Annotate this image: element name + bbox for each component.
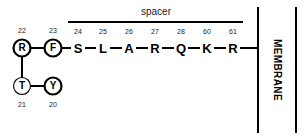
residue-number-27: 27 (151, 28, 159, 35)
residue-number-21: 21 (18, 101, 26, 108)
residue-number-24: 24 (74, 28, 82, 35)
membrane-label: MEMBRANE (272, 39, 282, 101)
residue-letter-y20: Y (50, 81, 57, 91)
peptide-membrane-diagram: spacer MEMBRANE R22F23T21Y20S24L25A26R27… (0, 0, 308, 139)
residue-letter-f23: F (50, 43, 56, 53)
residue-number-23: 23 (49, 27, 57, 34)
residue-letter-r27: R (150, 42, 159, 55)
residue-letter-r22: R (18, 43, 25, 53)
residue-number-28: 28 (177, 28, 185, 35)
residue-letter-t21: T (19, 81, 25, 91)
residue-number-60: 60 (203, 28, 211, 35)
residue-letter-a26: A (124, 42, 133, 55)
residue-number-20: 20 (49, 101, 57, 108)
residue-letter-l25: L (99, 42, 107, 55)
residue-number-22: 22 (18, 27, 26, 34)
residue-letter-s24: S (74, 42, 83, 55)
residue-letter-r61: R (228, 42, 237, 55)
residue-letter-k60: K (202, 42, 211, 55)
diagram-canvas (0, 0, 308, 139)
residue-letter-q28: Q (176, 42, 186, 55)
residue-number-25: 25 (99, 28, 107, 35)
residue-number-26: 26 (125, 28, 133, 35)
spacer-label: spacer (141, 7, 171, 17)
residue-number-61: 61 (229, 28, 237, 35)
